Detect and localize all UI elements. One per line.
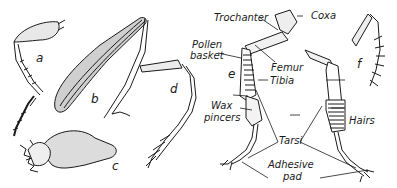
panel-label-c: c xyxy=(112,160,119,172)
label-pollen-basket-line1: Pollen xyxy=(192,40,222,50)
label-tarsi: Tarsi xyxy=(279,136,302,146)
leg-d-drawing xyxy=(140,60,196,168)
label-trochanter: Trochanter xyxy=(214,13,268,23)
panel-label-d: d xyxy=(170,83,178,95)
insect-legs-diagram: a b c d e f Trochanter Coxa Pollen baske… xyxy=(0,0,397,188)
panel-label-b: b xyxy=(91,93,99,105)
leg-f-drawing xyxy=(352,14,385,86)
label-hairs: Hairs xyxy=(349,116,375,126)
label-coxa: Coxa xyxy=(311,11,336,21)
leg-c-drawing xyxy=(20,131,116,172)
label-pollen-basket-line2: basket xyxy=(190,51,224,61)
leg-b-drawing xyxy=(55,17,148,118)
leg-illustrations xyxy=(0,0,397,188)
label-wax-pincers-line1: Wax xyxy=(211,101,232,111)
leg-e-drawing xyxy=(220,10,297,170)
panel-label-e: e xyxy=(228,68,235,80)
label-wax-pincers-line2: pincers xyxy=(204,113,240,123)
panel-label-f: f xyxy=(357,58,361,70)
label-femur: Femur xyxy=(271,63,303,73)
leg-a-drawing xyxy=(13,20,65,136)
label-tibia: Tibia xyxy=(270,76,294,86)
label-adhesive-pad-line1: Adhesive xyxy=(268,160,314,170)
panel-label-a: a xyxy=(36,52,43,64)
label-adhesive-pad-line2: pad xyxy=(283,172,302,182)
